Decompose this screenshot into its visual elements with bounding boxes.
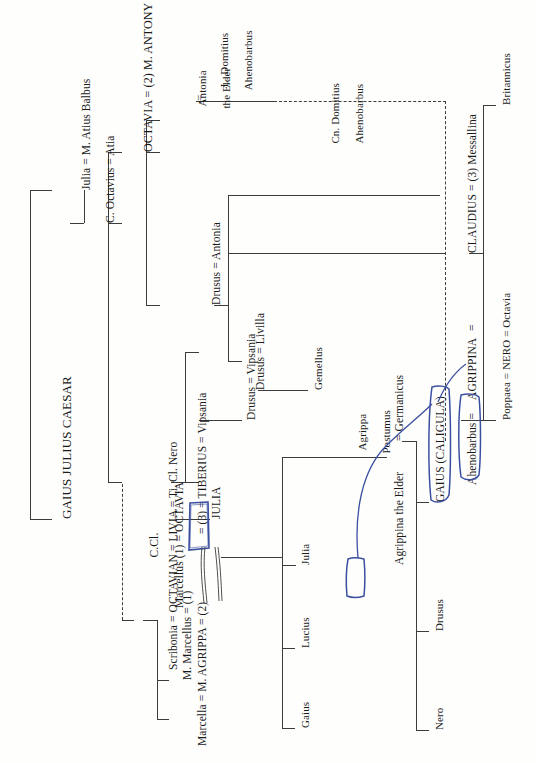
connector-livilla-branch [228, 361, 242, 362]
label-gaius-caligula: GAIUS (CALIGULA) [434, 396, 446, 502]
connector-antonia-younger-branch [146, 305, 160, 306]
connector-nero-child-branch [416, 730, 429, 731]
marriage-lines-julia [198, 545, 226, 607]
connector-octavian-branch [108, 482, 122, 483]
connector-gaius-branch [282, 728, 295, 729]
label-ccl-line1: C.Cl. [148, 533, 160, 558]
connector-claudius-children-spine [483, 105, 484, 420]
ink-box-julia-child [344, 556, 368, 600]
connector-caesar-julia-spine [30, 190, 31, 519]
connector-caligula-branch [416, 502, 429, 503]
connector-julia-to-octavius [84, 190, 85, 223]
connector-livia-children-spine [185, 352, 186, 482]
label-britannicus: Britannicus [501, 53, 513, 105]
connector-germanicus-children-spine [416, 441, 417, 730]
connector-marcella-branch [157, 719, 169, 720]
connector-marcellus-children-spine [157, 620, 158, 719]
connector-octavius-stub [70, 223, 84, 224]
label-l-domitius-ahenobarbus: L. Domitius Ahenobarbus [207, 30, 266, 101]
connector-drusus-antonia-branch [185, 352, 199, 353]
label-drusus-antonia: Drusus = Antonia [210, 222, 222, 305]
label-ahenobarbus-equals: Ahenobarbus = [466, 413, 478, 485]
connector-octavius-down [108, 223, 122, 224]
connector-caesar-stub [30, 519, 52, 520]
connector-julia-stub [30, 190, 52, 191]
label-drusus-vipsania: Drusus = Vipsania [245, 333, 257, 420]
dashed-connector-vertical [445, 101, 446, 441]
label-marcella-agrippa: Marcella = M. AGRIPPA = (2) [196, 602, 208, 746]
connector-drusus-child-branch [416, 631, 429, 632]
connector-germanicus-branch [228, 195, 440, 196]
label-julia-child: Julia [300, 544, 312, 565]
connector-drusus-antonia-children-spine [228, 195, 229, 361]
label-germanicus: = Germanicus [393, 375, 405, 441]
connector-claudius-branch [228, 253, 445, 254]
label-julia-parent-box-text: JULIA [198, 487, 235, 531]
label-octavia-m-antony: OCTAVIA = (2) M. ANTONY [142, 3, 155, 152]
connector-octavia-child-branch [483, 420, 496, 421]
label-antonia-elder-equals: = [194, 95, 206, 101]
connector-agrippa-to-children [221, 557, 282, 558]
label-ccl-line2: Marcellus (1) = OCTAVIA [173, 482, 185, 608]
label-claudius-messallina: CLAUDIUS = (3) Messallina [466, 114, 478, 253]
connector-m-marcellus-branch [157, 680, 169, 681]
label-lucius: Lucius [300, 617, 312, 648]
connector-marcellus-octavia-stub [122, 620, 134, 621]
connector-octavia-down [146, 152, 160, 153]
label-julia-atius-balbus: Julia = M. Atius Balbus [80, 79, 92, 190]
connector-drusus-antonia-down [214, 305, 228, 306]
label-agrippa-postumus-line2: Postumus [380, 410, 392, 454]
connector-britannicus-branch [483, 105, 496, 106]
label-drusus-child: Drusus [434, 599, 446, 631]
connector-lucius-branch [282, 648, 295, 649]
label-gemellus: Gemellus [313, 347, 325, 390]
label-cn-domitius-line1: Cn. Domitius [329, 83, 341, 144]
label-l-domitius-line1: L. Domitius [218, 33, 230, 87]
label-nero-child: Nero [434, 708, 446, 730]
connector-marcellus-down [143, 620, 157, 621]
connector-julia-agrippa-children-spine [282, 457, 283, 728]
label-agrippa-postumus-line1: Agrippa [356, 414, 368, 451]
connector-julia-child-branch [282, 565, 296, 566]
label-cn-domitius-ahenobarbus: Cn. Domitius Ahenobarbus [318, 83, 377, 155]
label-c-octavius-atia: C. Octavius = Atia [104, 136, 116, 224]
connector-drusus-livilla-to-gemellus [258, 390, 308, 391]
label-agrippina-claudius-equals: = [466, 324, 478, 331]
label-l-domitius-line2: Ahenobarbus [242, 30, 254, 90]
label-agrippina: AGRIPPINA [466, 338, 478, 400]
label-poppaea-nero-octavia: Poppaea = NERO = Octavia [501, 293, 513, 420]
label-cn-domitius-line2: Ahenobarbus [353, 84, 365, 144]
label-gaius: Gaius [300, 702, 312, 728]
family-tree-diagram: GAIUS JULIUS CAESAR Julia = M. Atius Bal… [0, 0, 536, 763]
label-m-marcellus: M. Marcellus = (1) [181, 591, 193, 680]
connector-claudius-down [469, 253, 483, 254]
label-agrippina-the-elder: Agrippina the Elder [393, 472, 405, 565]
dashed-connector-octavia-marcellus [122, 484, 123, 620]
julia-box-text: JULIA [210, 487, 222, 519]
label-gaius-julius-caesar: GAIUS JULIUS CAESAR [60, 376, 74, 519]
